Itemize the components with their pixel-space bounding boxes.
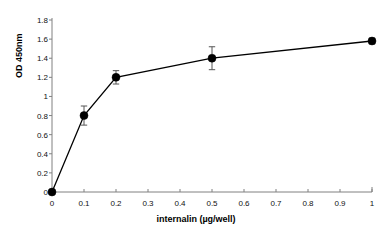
data-point-marker — [368, 37, 376, 45]
y-tick-label: 0.4 — [20, 149, 48, 158]
x-tick-label: 0.3 — [142, 199, 153, 208]
x-tick-label: 0.7 — [270, 199, 281, 208]
data-point-marker — [208, 54, 216, 62]
x-tick-label: 1 — [370, 199, 374, 208]
chart-plot-area — [0, 0, 392, 236]
x-tick-label: 0.8 — [302, 199, 313, 208]
x-tick-label: 0.1 — [78, 199, 89, 208]
chart-axes — [52, 18, 372, 192]
x-axis-title: internalin (µg/well) — [0, 214, 392, 224]
chart-error-bars — [81, 38, 375, 125]
x-tick-label: 0.5 — [206, 199, 217, 208]
data-point-marker — [80, 112, 88, 120]
data-point-marker — [112, 73, 120, 81]
y-axis-title: OD 450nm — [14, 33, 24, 78]
y-tick-label: 1.8 — [20, 16, 48, 25]
chart-container: 00.20.40.60.811.21.41.61.8 00.10.20.30.4… — [0, 0, 392, 236]
data-point-marker — [48, 188, 56, 196]
x-tick-label: 0.2 — [110, 199, 121, 208]
y-tick-label: 0.6 — [20, 130, 48, 139]
y-tick-label: 0.8 — [20, 111, 48, 120]
y-tick-label: 1.6 — [20, 35, 48, 44]
y-tick-label: 1 — [20, 92, 48, 101]
y-tick-label: 1.4 — [20, 54, 48, 63]
chart-data-markers — [48, 37, 376, 196]
x-tick-label: 0.6 — [238, 199, 249, 208]
y-tick-label: 0.2 — [20, 168, 48, 177]
x-tick-label: 0 — [50, 199, 54, 208]
x-tick-label: 0.9 — [334, 199, 345, 208]
x-tick-label: 0.4 — [174, 199, 185, 208]
y-tick-label: 1.2 — [20, 73, 48, 82]
y-tick-label: 0 — [20, 188, 48, 197]
